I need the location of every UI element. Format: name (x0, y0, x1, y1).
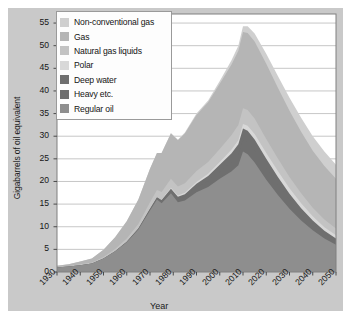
y-tick-label: 20 (27, 175, 49, 185)
legend-swatch-icon (60, 61, 69, 70)
legend-item: Polar (60, 58, 167, 72)
y-tick-label: 45 (27, 62, 49, 72)
legend-label: Polar (74, 60, 93, 70)
legend-swatch-icon (60, 46, 69, 55)
legend-item: Deep water (60, 73, 167, 87)
x-axis-title: Year (150, 301, 168, 311)
y-tick-label: 25 (27, 153, 49, 163)
legend-item: Heavy etc. (60, 87, 167, 101)
y-tick-label: 40 (27, 85, 49, 95)
y-tick-label: 15 (27, 198, 49, 208)
y-tick-label: 35 (27, 108, 49, 118)
y-tick-label: 55 (27, 17, 49, 27)
legend-label: Heavy etc. (74, 89, 113, 99)
legend-item: Natural gas liquids (60, 44, 167, 58)
legend-swatch-icon (60, 32, 69, 41)
legend-label: Regular oil (74, 104, 113, 114)
figure: Gigabarrels of oil equivalent Year Non-c… (0, 0, 351, 321)
y-axis-title: Gigabarrels of oil equivalent (12, 28, 26, 268)
legend-label: Deep water (74, 75, 116, 85)
legend-item: Regular oil (60, 101, 167, 115)
legend-item: Gas (60, 29, 167, 43)
y-tick-label: 10 (27, 221, 49, 231)
legend-swatch-icon (60, 18, 69, 27)
legend-label: Non-conventional gas (74, 17, 154, 27)
y-tick-label: 5 (27, 243, 49, 253)
y-tick-label: 30 (27, 130, 49, 140)
legend-label: Gas (74, 32, 89, 42)
legend-swatch-icon (60, 90, 69, 99)
y-tick-label: 50 (27, 40, 49, 50)
legend-label: Natural gas liquids (74, 46, 142, 56)
chart-legend: Non-conventional gasGasNatural gas liqui… (56, 11, 172, 120)
legend-item: Non-conventional gas (60, 15, 167, 29)
legend-swatch-icon (60, 75, 69, 84)
legend-swatch-icon (60, 104, 69, 113)
